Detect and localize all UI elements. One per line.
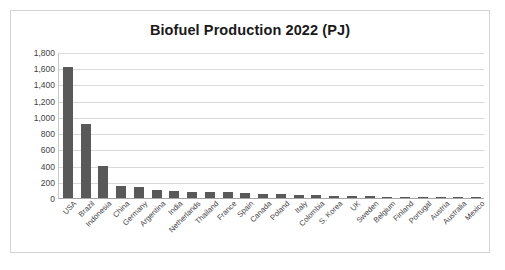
bar [240, 193, 250, 199]
chart-frame: Biofuel Production 2022 (PJ) 02004006008… [10, 10, 490, 253]
bar [294, 195, 304, 198]
y-axis-tick-label: 0 [50, 194, 55, 204]
x-axis-tick-label: USA [61, 199, 78, 216]
bar [436, 197, 446, 198]
bar [81, 124, 91, 198]
bar-series [59, 53, 484, 198]
bar [152, 190, 162, 198]
bar [63, 67, 73, 198]
chart-title: Biofuel Production 2022 (PJ) [11, 22, 489, 38]
y-axis-tick-label: 1,000 [34, 113, 55, 123]
bar [116, 186, 126, 198]
bar [134, 187, 144, 198]
bar [382, 197, 392, 198]
bar [98, 166, 108, 198]
y-axis-tick-label: 400 [41, 162, 55, 172]
bar [205, 192, 215, 198]
y-axis-tick-label: 1,800 [34, 48, 55, 58]
x-axis-tick-label: UK [348, 199, 362, 213]
bar [223, 192, 233, 198]
y-axis-tick-label: 200 [41, 178, 55, 188]
bar [169, 191, 179, 198]
bar [311, 195, 321, 198]
y-axis-tick-label: 1,400 [34, 80, 55, 90]
bar [187, 192, 197, 198]
bar [276, 194, 286, 198]
y-axis-tick-label: 800 [41, 129, 55, 139]
bar [365, 196, 375, 198]
x-axis-labels: USABrazilIndonesiaChinaGermanyArgentinaI… [58, 199, 483, 259]
y-axis-tick-label: 600 [41, 145, 55, 155]
y-axis-tick-label: 1,200 [34, 97, 55, 107]
plot-area: 02004006008001,0001,2001,4001,6001,800 [58, 53, 484, 199]
y-axis-tick-label: 1,600 [34, 64, 55, 74]
